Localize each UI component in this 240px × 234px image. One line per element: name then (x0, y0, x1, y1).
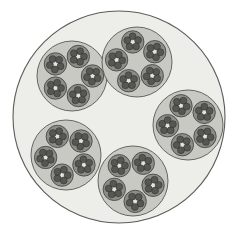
level2-group-top-right-1 (144, 41, 166, 63)
tiny-dot (197, 136, 204, 143)
recursive-circle-packing-figure: Recursive circle packing (Apollonian-sty… (0, 0, 240, 234)
tiny-dot (129, 82, 136, 89)
tiny-dot (79, 96, 86, 103)
tiny-dot (47, 81, 54, 88)
tiny-dot (47, 88, 54, 95)
tiny-dot (74, 86, 81, 93)
level2-group-bottom-0 (132, 152, 154, 174)
level2-group-bottom-left-4 (34, 146, 56, 168)
tiny-dot (84, 166, 91, 173)
tiny-dot (77, 58, 84, 65)
level1-group-top-right (102, 27, 172, 97)
level2-group-right-0 (193, 101, 215, 123)
tiny-dot (115, 190, 122, 197)
tiny-dot (49, 136, 56, 143)
tiny-dot (49, 56, 56, 63)
tiny-dot (146, 51, 153, 58)
tiny-dot (60, 177, 67, 184)
level2-group-top-right-0 (122, 31, 144, 53)
level2-group-bottom-left-3 (51, 164, 73, 186)
tiny-dot (121, 162, 128, 169)
tiny-dot (54, 175, 61, 182)
level2-group-right-2 (171, 134, 193, 156)
tiny-dot (147, 45, 154, 52)
level2-group-top-right-3 (117, 70, 139, 92)
tiny-dot (151, 176, 158, 183)
tiny-dot (204, 128, 211, 135)
tiny-dot (183, 138, 190, 145)
tiny-dot (169, 121, 176, 128)
tiny-dot (54, 90, 61, 97)
tiny-dot (133, 43, 140, 50)
tiny-dot (153, 68, 160, 75)
tiny-dot (124, 37, 131, 44)
level2-group-top-left-1 (81, 65, 103, 87)
tiny-dot (204, 114, 211, 121)
tiny-dot (135, 194, 142, 201)
level2-group-right-1 (194, 125, 216, 147)
tiny-dot (126, 43, 133, 50)
level2-group-top-right-4 (105, 49, 127, 71)
level1-group-bottom (98, 146, 168, 216)
tiny-dot (70, 50, 77, 57)
level1-group-right (153, 90, 223, 160)
tiny-dot (201, 103, 208, 110)
figure-root: Recursive circle packing (Apollonian-sty… (0, 0, 240, 234)
tiny-dot (197, 113, 204, 120)
tiny-dot (122, 82, 129, 89)
level2-group-right-4 (170, 95, 192, 117)
level2-group-top-left-3 (44, 77, 66, 99)
tiny-dot (75, 133, 82, 140)
tiny-dot (81, 133, 88, 140)
tiny-dot (116, 183, 123, 190)
level2-group-bottom-2 (124, 190, 146, 212)
tiny-dot (125, 72, 132, 79)
level2-group-bottom-left-0 (46, 125, 68, 147)
level2-group-bottom-left-2 (73, 154, 95, 176)
level2-group-top-left-2 (67, 84, 89, 106)
tiny-dot (56, 56, 63, 63)
tiny-dot (129, 193, 136, 200)
tiny-dot (46, 150, 53, 157)
tiny-dot (173, 105, 180, 112)
fractal-layer (13, 11, 225, 223)
tiny-dot (55, 138, 62, 145)
tiny-dot (177, 136, 184, 143)
level2-group-top-left-0 (67, 45, 89, 67)
tiny-dot (54, 79, 61, 86)
tiny-dot (54, 168, 61, 175)
level2-group-bottom-3 (103, 178, 125, 200)
level2-group-bottom-left-1 (70, 130, 92, 152)
tiny-dot (93, 68, 100, 75)
tiny-dot (80, 156, 87, 163)
tiny-dot (39, 149, 46, 156)
level1-group-bottom-left (31, 120, 101, 190)
level2-group-right-3 (156, 115, 178, 137)
tiny-dot (152, 187, 159, 194)
tiny-dot (173, 98, 180, 105)
level2-group-top-right-2 (141, 65, 163, 87)
tiny-dot (111, 166, 118, 173)
level2-group-top-left-4 (44, 53, 66, 75)
level2-group-bottom-1 (142, 174, 164, 196)
tiny-dot (183, 103, 190, 110)
tiny-dot (70, 56, 77, 63)
tiny-dot (139, 154, 146, 161)
tiny-dot (86, 68, 93, 75)
tiny-dot (108, 59, 115, 66)
tiny-dot (115, 51, 122, 58)
level1-group-top-left (37, 41, 107, 111)
tiny-dot (161, 127, 168, 134)
tiny-dot (144, 164, 151, 171)
tiny-dot (109, 53, 116, 60)
tiny-dot (146, 67, 153, 74)
tiny-dot (60, 166, 67, 173)
tiny-dot (145, 185, 152, 192)
tiny-dot (197, 129, 204, 136)
tiny-dot (135, 37, 142, 44)
level2-group-bottom-4 (108, 155, 130, 177)
tiny-dot (49, 130, 56, 137)
